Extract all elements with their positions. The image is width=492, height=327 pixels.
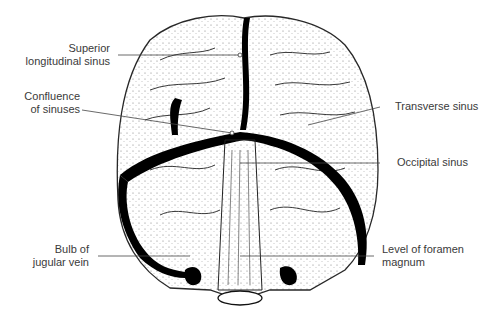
label-line: of sinuses [24,103,80,116]
label-line: Superior [26,42,110,55]
label-line: Level of foramen [382,243,464,256]
label-line: Occipital sinus [397,156,468,169]
spinal-cord-section [218,291,262,305]
label-line: jugular vein [33,256,89,269]
diagram-canvas: Superior longitudinal sinus Confluence o… [0,0,492,327]
label-level-of-foramen-magnum: Level of foramen magnum [382,243,464,269]
label-superior-longitudinal-sinus: Superior longitudinal sinus [26,42,110,68]
label-line: magnum [382,256,464,269]
label-confluence-of-sinuses: Confluence of sinuses [24,90,80,116]
label-line: longitudinal sinus [26,55,110,68]
label-transverse-sinus: Transverse sinus [395,100,478,113]
label-occipital-sinus: Occipital sinus [397,156,468,169]
label-line: Confluence [24,90,80,103]
label-bulb-of-jugular-vein: Bulb of jugular vein [33,243,89,269]
label-line: Transverse sinus [395,100,478,113]
label-line: Bulb of [33,243,89,256]
